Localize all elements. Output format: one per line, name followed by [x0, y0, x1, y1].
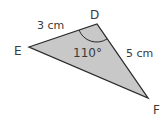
angle-label-d: 110° — [73, 46, 102, 60]
triangle-diagram: D E F 3 cm 5 cm 110° — [0, 0, 168, 121]
vertex-label-f: F — [153, 103, 160, 117]
vertex-label-e: E — [14, 44, 22, 58]
side-label-de: 3 cm — [37, 19, 64, 32]
vertex-label-d: D — [90, 8, 99, 22]
side-label-df: 5 cm — [126, 47, 153, 60]
triangle-def — [29, 24, 148, 98]
